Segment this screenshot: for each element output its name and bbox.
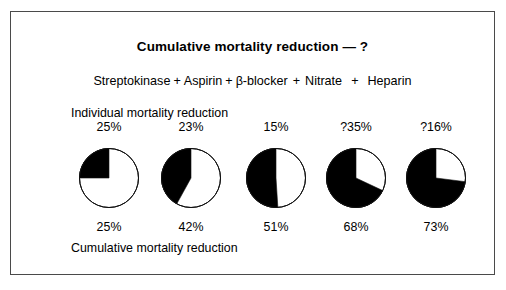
individual-percent-4: ?35% xyxy=(316,120,396,134)
cumulative-percent-row: 25% 42% 51% 68% 73% xyxy=(11,220,494,236)
cumulative-percent-4: 68% xyxy=(316,220,396,234)
figure-title: Cumulative mortality reduction — ? xyxy=(11,39,494,54)
pie-chart-1 xyxy=(69,145,149,211)
pie-chart-row xyxy=(11,145,494,215)
cumulative-percent-1: 25% xyxy=(69,220,149,234)
individual-percent-2: 23% xyxy=(151,120,231,134)
cumulative-mortality-caption: Cumulative mortality reduction xyxy=(71,241,238,255)
regimen-plus-1: + xyxy=(170,74,183,88)
figure-frame: Cumulative mortality reduction — ? Strep… xyxy=(10,11,495,275)
regimen-drug-nitrate: Nitrate xyxy=(305,74,342,88)
regimen-plus-4: + xyxy=(342,74,367,88)
cumulative-percent-2: 42% xyxy=(151,220,231,234)
pie-chart-3 xyxy=(236,145,316,211)
individual-mortality-caption: Individual mortality reduction xyxy=(71,106,228,120)
individual-percent-3: 15% xyxy=(236,120,316,134)
regimen-plus-2: + xyxy=(222,74,235,88)
regimen-drug-beta-blocker: β-blocker xyxy=(236,74,288,88)
pie-chart-2 xyxy=(151,145,231,211)
pie-chart-4 xyxy=(316,145,396,211)
page-bleed-artifact xyxy=(0,0,506,9)
cumulative-percent-3: 51% xyxy=(236,220,316,234)
regimen-plus-3: + xyxy=(288,74,305,88)
regimen-row: Streptokinase+Aspirin+β-blocker+Nitrate+… xyxy=(11,74,494,88)
cumulative-percent-5: 73% xyxy=(396,220,476,234)
pie-chart-5 xyxy=(396,145,476,211)
regimen-drug-streptokinase: Streptokinase xyxy=(93,74,170,88)
regimen-drug-heparin: Heparin xyxy=(367,74,411,88)
individual-percent-5: ?16% xyxy=(396,120,476,134)
individual-percent-row: 25% 23% 15% ?35% ?16% xyxy=(11,120,494,136)
individual-percent-1: 25% xyxy=(69,120,149,134)
regimen-drug-aspirin: Aspirin xyxy=(184,74,223,88)
